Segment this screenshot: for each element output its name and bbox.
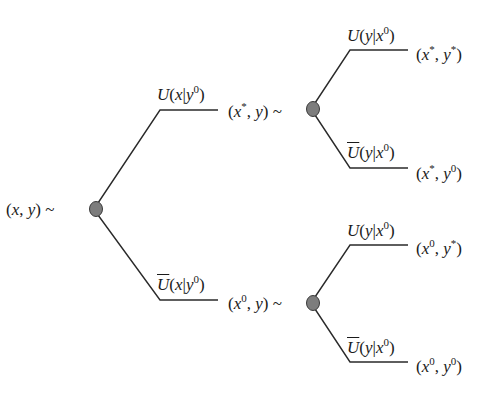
var-y: y <box>255 102 263 121</box>
sup-star: * <box>451 237 457 249</box>
var-x: x <box>175 275 183 294</box>
var-y: y <box>443 164 451 183</box>
sup-star: * <box>241 100 247 112</box>
sup-zero: 0 <box>241 292 247 304</box>
sup-zero: 0 <box>383 219 389 231</box>
var-x: x <box>175 85 183 104</box>
tilde: ~ <box>273 294 282 313</box>
outcome-xstar-y0: (x*, y0) <box>416 165 462 182</box>
sup-zero: 0 <box>451 162 457 174</box>
outcome-xstar-ystar: (x*, y*) <box>416 46 462 63</box>
sup-zero: 0 <box>193 83 199 95</box>
Ubar-symbol: U <box>347 338 359 357</box>
U-symbol: U <box>347 221 359 240</box>
edge-lower-up <box>315 245 408 297</box>
sup-star: * <box>429 43 435 55</box>
sup-star: * <box>429 162 435 174</box>
sup-zero: 0 <box>429 355 435 367</box>
root-node <box>90 202 103 217</box>
var-y: y <box>443 239 451 258</box>
Ubar-symbol: U <box>157 275 169 294</box>
lower-node <box>307 296 320 311</box>
upper-node <box>307 102 320 117</box>
branch-label-Ubar-y-given-x0-1: U(y|x0) <box>347 144 395 161</box>
branch-label-Ubar-x-given-y0: U(x|y0) <box>157 276 205 293</box>
sup-zero: 0 <box>383 141 389 153</box>
tilde: ~ <box>273 102 282 121</box>
tilde: ~ <box>45 200 54 219</box>
sup-star: * <box>451 43 457 55</box>
var-y: y <box>443 45 451 64</box>
sup-zero: 0 <box>451 355 457 367</box>
branch-label-U-x-given-y0: U(x|y0) <box>157 86 205 103</box>
U-symbol: U <box>157 85 169 104</box>
outcome-x0-y0: (x0, y0) <box>416 358 462 375</box>
state-label-xstar-y: (x*, y) ~ <box>228 103 282 120</box>
sup-zero: 0 <box>429 237 435 249</box>
var-y: y <box>255 294 263 313</box>
var-x: x <box>12 200 20 219</box>
sup-zero: 0 <box>193 273 199 285</box>
branch-label-U-y-given-x0-2: U(y|x0) <box>347 222 395 239</box>
var-y: y <box>365 221 373 240</box>
var-y: y <box>28 200 36 219</box>
outcome-x0-ystar: (x0, y*) <box>416 240 462 257</box>
sup-zero: 0 <box>383 336 389 348</box>
Ubar-symbol: U <box>347 143 359 162</box>
edge-root-upper <box>98 110 218 203</box>
state-label-x0-y: (x0, y) ~ <box>228 295 282 312</box>
var-y: y <box>365 143 373 162</box>
var-y: y <box>365 338 373 357</box>
branch-label-U-y-given-x0-1: U(y|x0) <box>347 27 395 44</box>
var-y: y <box>365 26 373 45</box>
edge-upper-up <box>315 50 408 103</box>
branch-label-Ubar-y-given-x0-2: U(y|x0) <box>347 339 395 356</box>
U-symbol: U <box>347 26 359 45</box>
var-y: y <box>443 357 451 376</box>
sup-zero: 0 <box>383 24 389 36</box>
root-label: (x, y) ~ <box>6 201 54 218</box>
